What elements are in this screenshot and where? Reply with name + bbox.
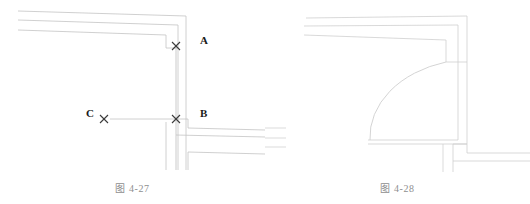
wall-line-middle-top-right: [304, 25, 458, 62]
wall-line-outer-top-right: [306, 16, 467, 62]
wall-line-east-branch-upper: [453, 144, 530, 153]
wall-line-branch-middle: [176, 135, 265, 137]
snap-marker-c: [100, 115, 108, 123]
cad-figures-canvas: [0, 0, 530, 204]
figure-caption-left: 图 4-27: [0, 180, 265, 195]
wall-line-inner-top-right: [304, 35, 446, 62]
point-label-b: B: [200, 108, 207, 119]
wall-line-branch-lower: [188, 152, 265, 154]
figure-4-28-drawing: [265, 16, 530, 172]
figure-4-27-drawing: [18, 11, 265, 170]
wall-line-middle-top: [18, 20, 178, 170]
fillet-arc: [370, 62, 446, 140]
wall-line-inner-top: [18, 30, 166, 48]
point-label-a: A: [200, 35, 208, 46]
point-label-c: C: [86, 108, 94, 119]
figure-caption-right: 图 4-28: [265, 180, 530, 195]
wall-line-branch-upper: [176, 119, 265, 130]
